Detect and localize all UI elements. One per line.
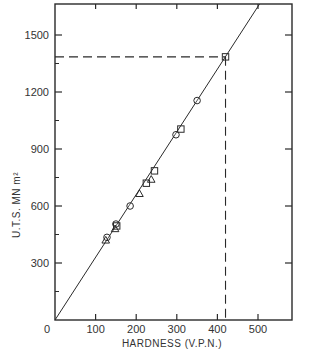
- circle-marker: [194, 97, 201, 104]
- circle-marker: [127, 203, 134, 210]
- plot-frame: [55, 4, 292, 320]
- plot-border: [55, 4, 292, 320]
- y-tick-label: 900: [31, 143, 49, 155]
- x-tick-label: 500: [249, 323, 267, 335]
- y-tick-label: 1200: [25, 86, 49, 98]
- x-axis-title: HARDNESS (V.P.N.): [122, 338, 222, 349]
- y-tick-label: 600: [31, 200, 49, 212]
- y-axis-title: U.T.S. MN m²: [11, 172, 22, 238]
- x-tick-label: 300: [168, 323, 186, 335]
- data-points: [102, 54, 229, 243]
- y-tick-label: 300: [31, 257, 49, 269]
- regression-line: [55, 4, 260, 320]
- x-tick-label: 400: [208, 323, 226, 335]
- square-marker: [151, 168, 157, 174]
- x-tick-label: 200: [127, 323, 145, 335]
- fit-line: [55, 4, 260, 320]
- tick-labels: 010020030040050030060090012001500: [25, 29, 268, 335]
- y-tick-label: 1500: [25, 29, 49, 41]
- x-tick-label: 0: [44, 323, 50, 335]
- chart: 010020030040050030060090012001500 HARDNE…: [0, 0, 311, 361]
- triangle-marker: [147, 176, 155, 183]
- x-tick-label: 100: [86, 323, 104, 335]
- axis-ticks: [55, 4, 292, 320]
